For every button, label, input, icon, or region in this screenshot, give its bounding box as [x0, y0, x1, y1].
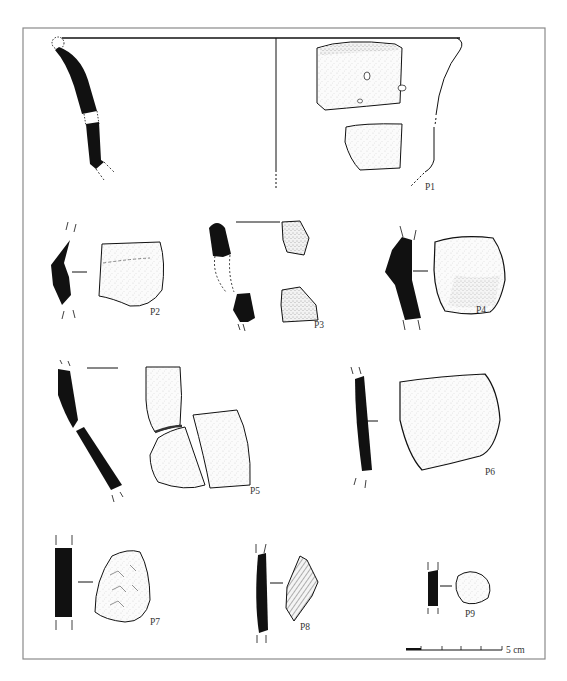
sherd-p9: P9 — [428, 562, 490, 619]
sherd-p4: P4 — [385, 226, 505, 330]
label-p1: P1 — [425, 182, 435, 192]
sherd-p8: P8 — [256, 544, 318, 643]
scale-bar: 5 cm — [406, 645, 525, 655]
plate-frame — [23, 28, 545, 659]
label-p5: P5 — [250, 486, 260, 496]
sherd-p2: P2 — [51, 222, 164, 319]
sherd-p5: P5 — [58, 360, 260, 502]
scale-bar-label: 5 cm — [506, 645, 525, 655]
sherd-p7: P7 — [55, 535, 160, 630]
label-p6: P6 — [485, 467, 495, 477]
pottery-plate: P1 P2 P3 P4 P5 — [0, 0, 567, 681]
label-p2: P2 — [150, 307, 160, 317]
label-p4: P4 — [476, 305, 486, 315]
sherd-p3: P3 — [209, 221, 324, 331]
label-p3: P3 — [314, 320, 324, 330]
sherd-p6: P6 — [351, 367, 500, 488]
label-p9: P9 — [465, 609, 475, 619]
sherd-p1: P1 — [52, 37, 462, 192]
label-p7: P7 — [150, 617, 160, 627]
label-p8: P8 — [300, 622, 310, 632]
